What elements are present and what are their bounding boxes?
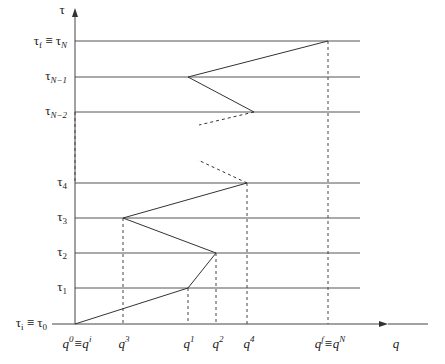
time-slice-lines [75,41,360,288]
label-tau-N-2: τN−2 [45,103,67,120]
q-axis-arrow-icon [379,321,388,327]
path-integral-diagram: τ τf ≡ τN τN−1 τN−2 τ4 τ3 τ2 τ1 τi ≡ τ0 … [0,0,445,364]
label-q0: q0≡qi [63,334,92,351]
label-tau-N-1: τN−1 [45,68,67,85]
label-tau-2: τ2 [57,244,67,261]
label-q1: q1 [184,334,195,351]
label-tau-0: τi ≡ τ0 [16,315,48,332]
label-q2: q2 [213,334,225,351]
tau-axis-arrow-icon [72,8,78,17]
label-q4: q4 [244,334,256,351]
path-gap-lower [198,160,247,183]
label-qN: qf≡qN [315,334,346,351]
tau-axis-label: τ [59,2,64,17]
label-tau-3: τ3 [57,209,67,226]
label-tau-N: τf ≡ τN [34,33,68,50]
path-gap-upper [199,112,254,125]
label-q3: q3 [119,334,131,351]
label-tau-4: τ4 [57,174,67,191]
q-axis-label: q [393,336,400,351]
label-tau-1: τ1 [57,279,67,296]
